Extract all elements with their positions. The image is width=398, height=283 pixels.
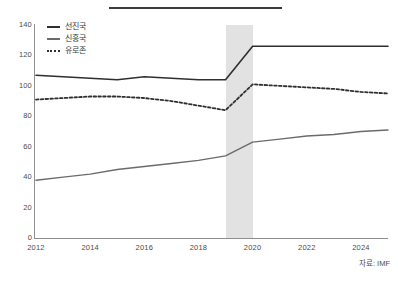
legend-item-eurozone: 유로존 bbox=[47, 45, 86, 57]
y-axis-ticks: 020406080100120140 bbox=[0, 0, 32, 283]
series-line-신흥국 bbox=[36, 130, 388, 180]
chart-figure: 020406080100120140 201220142016201820202… bbox=[0, 0, 398, 283]
y-axis-tick-label: 100 bbox=[2, 82, 32, 90]
legend-swatch-line-icon bbox=[47, 38, 60, 40]
series-line-유로존 bbox=[36, 84, 388, 110]
x-axis-tick-label: 2018 bbox=[190, 243, 208, 252]
x-axis-tick-label: 2024 bbox=[352, 243, 370, 252]
chart-legend: 선진국 신흥국 유로존 bbox=[47, 21, 86, 57]
legend-label-advanced: 선진국 bbox=[65, 21, 86, 33]
legend-label-emerging: 신흥국 bbox=[65, 33, 86, 45]
source-note: 자료: IMF bbox=[359, 257, 390, 268]
x-axis-line bbox=[34, 238, 388, 239]
y-axis-line bbox=[34, 24, 35, 239]
legend-swatch-dotted-icon bbox=[47, 50, 60, 52]
x-axis-tick-label: 2014 bbox=[81, 243, 99, 252]
y-axis-tick-label: 60 bbox=[2, 143, 32, 151]
legend-item-advanced: 선진국 bbox=[47, 21, 86, 33]
y-axis-tick-label: 80 bbox=[2, 112, 32, 120]
legend-swatch-line-icon bbox=[47, 26, 60, 28]
series-line-선진국 bbox=[36, 46, 388, 79]
x-axis-tick-label: 2020 bbox=[244, 243, 262, 252]
x-axis-tick-label: 2012 bbox=[27, 243, 45, 252]
y-axis-tick-label: 0 bbox=[2, 234, 32, 242]
legend-item-emerging: 신흥국 bbox=[47, 33, 86, 45]
x-axis-tick-label: 2022 bbox=[298, 243, 316, 252]
legend-label-eurozone: 유로존 bbox=[65, 45, 86, 57]
y-axis-tick-label: 120 bbox=[2, 51, 32, 59]
y-axis-tick-label: 40 bbox=[2, 173, 32, 181]
y-axis-tick-label: 20 bbox=[2, 204, 32, 212]
y-axis-tick-label: 140 bbox=[2, 21, 32, 29]
x-axis-tick-label: 2016 bbox=[136, 243, 154, 252]
